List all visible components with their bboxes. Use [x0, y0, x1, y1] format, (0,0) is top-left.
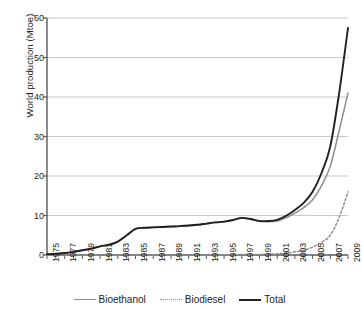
- legend-label: Biodiesel: [185, 295, 226, 305]
- x-tick-label: 1991: [192, 243, 202, 262]
- x-tick-label: 1975: [51, 243, 61, 262]
- x-tick-label: 1993: [210, 243, 220, 262]
- x-tick-label: 2007: [334, 243, 344, 262]
- legend-item-total[interactable]: Total: [239, 295, 285, 305]
- x-tick-label: 1987: [157, 243, 167, 262]
- x-tick-label: 1983: [121, 243, 131, 262]
- x-tick-label: 1979: [86, 243, 96, 262]
- x-tick-label: 1985: [139, 243, 149, 262]
- legend-label: Bioethanol: [99, 295, 146, 305]
- x-tick-label: 2005: [316, 243, 326, 262]
- legend-label: Total: [264, 295, 285, 305]
- x-tick-label: 1995: [228, 243, 238, 262]
- chart-legend: BioethanolBiodieselTotal: [0, 295, 359, 305]
- legend-item-biodiesel[interactable]: Biodiesel: [160, 295, 226, 305]
- x-tick-label: 2001: [281, 243, 291, 262]
- x-tick-label: 1989: [174, 243, 184, 262]
- line-swatch-dotted-gray: [160, 296, 182, 304]
- x-tick-label: 1981: [104, 243, 114, 262]
- line-swatch-solid-black: [239, 296, 261, 304]
- x-tick-label: 1997: [245, 243, 255, 262]
- x-tick-label: 2003: [298, 243, 308, 262]
- x-tick-label: 1999: [263, 243, 273, 262]
- x-tick-label: 2009: [352, 243, 362, 262]
- legend-item-bioethanol[interactable]: Bioethanol: [74, 295, 146, 305]
- line-swatch-solid-gray: [74, 296, 96, 304]
- x-tick-label: 1977: [68, 243, 78, 262]
